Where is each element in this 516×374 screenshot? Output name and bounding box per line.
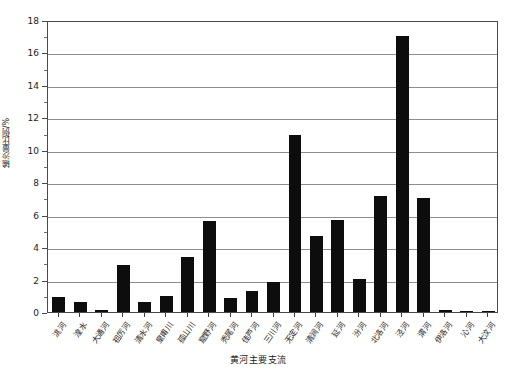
chart-figure: 输沙量比例/% 024681012141618 洮河湟水大通河祖厉河清水河皇甫川… [0, 0, 516, 374]
x-axis-tick [294, 313, 295, 317]
y-axis-minor-tick [44, 37, 47, 38]
y-axis-tick [42, 216, 47, 217]
x-axis-tick [230, 313, 231, 317]
bar [396, 36, 409, 312]
x-axis-tick-label-text: 清涧河 [305, 319, 327, 345]
x-axis-tick-label-text: 三川河 [262, 319, 284, 345]
y-axis-tick-label: 6 [15, 212, 39, 221]
x-axis-tick-label-text: 窟野河 [197, 319, 219, 345]
x-axis-tick-label-text: 湟水 [73, 319, 91, 339]
bar [374, 196, 387, 312]
x-axis-tick [358, 313, 359, 317]
bar [417, 198, 430, 312]
x-axis-tick [251, 313, 252, 317]
y-axis-tick-label: 18 [15, 17, 39, 26]
x-axis-tick-label-text: 渭河 [417, 319, 435, 339]
x-axis-tick-label-text: 祖厉河 [111, 319, 133, 345]
x-axis-tick [487, 313, 488, 317]
bar [52, 297, 65, 312]
y-axis-minor-tick [44, 199, 47, 200]
y-axis-minor-tick [44, 70, 47, 71]
x-axis-tick [337, 313, 338, 317]
x-axis-tick-label-text: 无定河 [283, 319, 305, 345]
x-axis-tick [79, 313, 80, 317]
x-axis-tick [165, 313, 166, 317]
y-axis-title: 输沙量比例/% [2, 118, 18, 168]
y-axis-minor-tick [44, 135, 47, 136]
x-axis-tick [273, 313, 274, 317]
y-axis-tick [42, 183, 47, 184]
x-axis-tick [187, 313, 188, 317]
x-axis-tick-label-text: 清水河 [133, 319, 155, 345]
y-axis-tick-label: 2 [15, 277, 39, 286]
x-axis-tick-label-text: 汾河 [352, 319, 370, 339]
y-axis-minor-tick [44, 264, 47, 265]
y-axis-minor-tick [44, 102, 47, 103]
x-axis-tick [423, 313, 424, 317]
y-axis-tick [42, 281, 47, 282]
x-axis-tick [466, 313, 467, 317]
x-axis-tick-label-text: 大通河 [90, 319, 112, 345]
bar [289, 135, 302, 312]
x-axis-tick [444, 313, 445, 317]
x-axis-tick-label-text: 皇甫川 [154, 319, 176, 345]
y-axis-tick [42, 313, 47, 314]
x-axis-tick-label-text: 佳芦河 [240, 319, 262, 345]
plot-area [47, 21, 498, 313]
x-axis-tick [208, 313, 209, 317]
y-axis-tick-label: 12 [15, 114, 39, 123]
x-axis-title: 黄河主要支流 [0, 355, 516, 366]
x-axis-tick-label-text: 伊洛河 [433, 319, 455, 345]
y-axis-tick [42, 248, 47, 249]
x-axis-tick [315, 313, 316, 317]
y-axis-tick [42, 21, 47, 22]
y-axis-minor-tick [44, 167, 47, 168]
x-axis-tick [122, 313, 123, 317]
x-axis-tick-label-text: 孤山川 [176, 319, 198, 345]
y-axis-tick [42, 118, 47, 119]
y-axis-tick-label: 10 [15, 147, 39, 156]
y-axis-tick-label: 0 [15, 309, 39, 318]
x-axis-tick-label-text: 延河 [331, 319, 349, 339]
y-axis-minor-tick [44, 232, 47, 233]
x-axis-tick-label-text: 北洛河 [369, 319, 391, 345]
x-axis-tick [144, 313, 145, 317]
x-axis-tick [101, 313, 102, 317]
y-axis-tick-label: 4 [15, 244, 39, 253]
x-axis-tick [58, 313, 59, 317]
y-axis-tick-label: 16 [15, 49, 39, 58]
x-axis-tick-label-text: 秃尾河 [219, 319, 241, 345]
x-axis-tick-label-text: 洮河 [51, 319, 69, 339]
x-axis-tick-label-text: 大汶河 [476, 319, 498, 345]
y-axis-tick-label: 14 [15, 82, 39, 91]
y-axis-tick-label: 8 [15, 179, 39, 188]
y-axis-minor-tick [44, 297, 47, 298]
bar-series [48, 22, 497, 312]
x-axis-tick-label-text: 沁河 [459, 319, 477, 339]
y-axis-tick [42, 53, 47, 54]
x-axis-tick [380, 313, 381, 317]
x-axis-tick-label-text: 泾河 [395, 319, 413, 339]
y-axis-tick [42, 86, 47, 87]
x-axis-tick [401, 313, 402, 317]
y-axis-tick [42, 151, 47, 152]
